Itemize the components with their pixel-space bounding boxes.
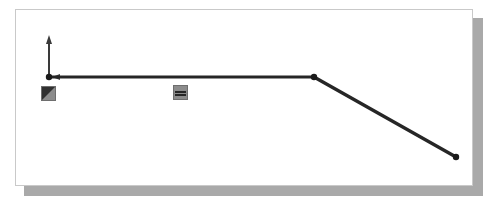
support-roller-icon[interactable] — [173, 85, 188, 100]
node-bend[interactable] — [311, 74, 317, 80]
double-bar-icon — [175, 91, 186, 93]
member-inclined[interactable] — [314, 77, 456, 157]
screenshot-stage: Structural member diagram — [0, 0, 497, 207]
diagram-vector-layer[interactable] — [16, 10, 474, 187]
triangle-fill-icon — [42, 87, 55, 100]
load-vector-vertical-icon[interactable] — [46, 35, 52, 77]
drawing-canvas[interactable] — [15, 9, 473, 186]
node-left-support[interactable] — [46, 74, 52, 80]
node-right-end[interactable] — [453, 154, 459, 160]
support-fixed-icon[interactable] — [41, 86, 56, 101]
